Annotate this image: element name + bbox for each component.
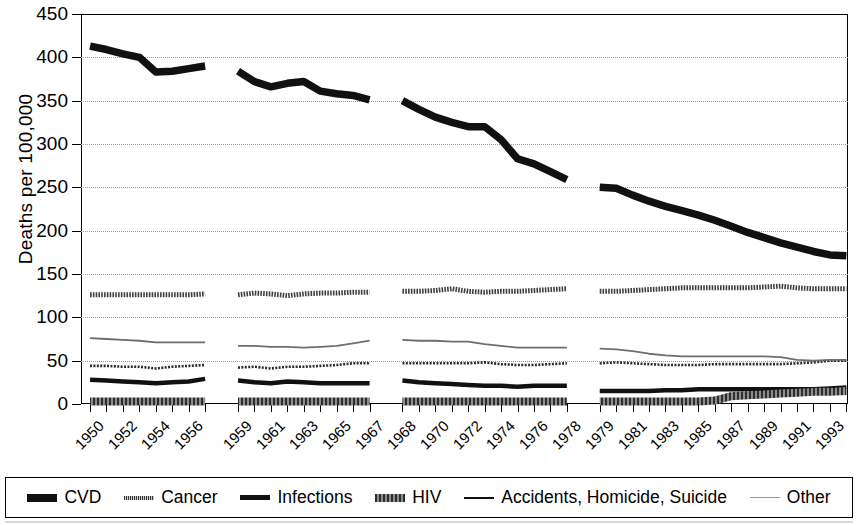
legend-swatch-cvd-icon xyxy=(27,494,57,502)
series-line-other xyxy=(90,338,205,342)
y-axis-tick-label: 0 xyxy=(57,393,68,415)
y-axis-tick xyxy=(72,144,81,145)
y-axis-tick xyxy=(72,361,81,362)
series-lines xyxy=(81,14,848,404)
x-axis-tick xyxy=(846,404,847,412)
x-axis-tick-label: 1963 xyxy=(285,417,321,453)
series-line-infections xyxy=(402,381,566,387)
legend-label: CVD xyxy=(64,487,101,508)
y-axis-tick xyxy=(72,404,81,405)
series-line-other xyxy=(402,340,566,348)
legend-label: Cancer xyxy=(161,487,217,508)
series-line-cvd xyxy=(402,101,566,180)
y-axis-tick-label: 250 xyxy=(36,176,68,198)
series-line-accidents-homicide-suicide xyxy=(90,365,205,368)
x-axis-tick xyxy=(781,404,782,412)
x-axis-tick-label: 1967 xyxy=(351,417,387,453)
x-axis-tick-label: 1952 xyxy=(104,417,140,453)
y-axis-tick xyxy=(72,187,81,188)
x-axis-tick-label: 1979 xyxy=(581,417,617,453)
y-axis-tick-label: 100 xyxy=(36,306,68,328)
x-axis-tick-label: 1959 xyxy=(219,417,255,453)
legend-label: HIV xyxy=(412,487,441,508)
x-axis-tick-label: 1978 xyxy=(548,417,584,453)
y-axis-tick-label: 50 xyxy=(47,350,68,372)
x-axis-tick-label: 1954 xyxy=(137,417,173,453)
series-line-infections xyxy=(238,381,370,384)
x-axis-tick-label: 1968 xyxy=(384,417,420,453)
series-line-cvd xyxy=(90,46,205,72)
x-axis-tick-label: 1956 xyxy=(170,417,206,453)
x-axis-tick xyxy=(764,404,765,412)
x-axis-tick-label: 1985 xyxy=(680,417,716,453)
legend-swatch-hiv-icon xyxy=(375,494,405,502)
series-line-cancer xyxy=(90,294,205,295)
legend-item-accidents-homicide-suicide[interactable]: Accidents, Homicide, Suicide xyxy=(464,487,727,508)
x-axis-tick xyxy=(731,404,732,412)
y-axis-tick-label: 300 xyxy=(36,133,68,155)
legend-item-hiv[interactable]: HIV xyxy=(375,487,441,508)
x-axis-tick xyxy=(830,404,831,412)
series-line-cvd xyxy=(600,187,847,255)
legend-swatch-acc-icon xyxy=(464,497,494,499)
x-axis-tick xyxy=(567,404,568,412)
series-line-accidents-homicide-suicide xyxy=(238,363,370,368)
line-chart-figure: Deaths per 100,000 050100150200250300350… xyxy=(0,0,860,470)
x-axis-tick-label: 1961 xyxy=(252,417,288,453)
legend-swatch-other-icon xyxy=(750,497,780,499)
x-axis-tick-label: 1983 xyxy=(647,417,683,453)
legend-label: Infections xyxy=(277,487,352,508)
x-axis-tick xyxy=(715,404,716,412)
legend-swatch-cancer-icon xyxy=(124,496,154,500)
y-axis-tick xyxy=(72,101,81,102)
footer-rule xyxy=(5,521,853,523)
legend-swatch-inf-icon xyxy=(240,495,270,500)
x-axis-tick-label: 1976 xyxy=(515,417,551,453)
y-axis-tick-label: 150 xyxy=(36,263,68,285)
series-line-other xyxy=(238,341,370,348)
x-axis-tick-label: 1950 xyxy=(71,417,107,453)
legend-item-other[interactable]: Other xyxy=(750,487,831,508)
y-axis-tick-label: 400 xyxy=(36,46,68,68)
x-axis-tick xyxy=(205,404,206,412)
legend-item-infections[interactable]: Infections xyxy=(240,487,352,508)
series-line-other xyxy=(600,349,847,361)
x-axis-tick-label: 1974 xyxy=(482,417,518,453)
y-axis-tick xyxy=(72,14,81,15)
series-line-infections xyxy=(90,379,205,383)
legend-item-cvd[interactable]: CVD xyxy=(27,487,101,508)
chart-page: Deaths per 100,000 050100150200250300350… xyxy=(0,0,860,525)
legend-label: Other xyxy=(787,487,831,508)
legend-label: Accidents, Homicide, Suicide xyxy=(501,487,727,508)
x-axis-tick-label: 1965 xyxy=(318,417,354,453)
plot-area: 050100150200250300350400450 195019521954… xyxy=(81,14,848,404)
x-axis-tick-label: 1972 xyxy=(450,417,486,453)
x-axis-tick-label: 1987 xyxy=(713,417,749,453)
series-line-accidents-homicide-suicide xyxy=(402,362,566,365)
series-line-cancer xyxy=(402,289,566,292)
x-axis-tick-label: 1970 xyxy=(417,417,453,453)
y-axis-tick-label: 200 xyxy=(36,220,68,242)
series-line-cancer xyxy=(600,286,847,291)
y-axis-tick xyxy=(72,231,81,232)
x-axis-tick-label: 1989 xyxy=(746,417,782,453)
y-axis-tick xyxy=(72,274,81,275)
series-line-cvd xyxy=(238,71,370,100)
x-axis-tick xyxy=(797,404,798,412)
chart-legend: CVDCancerInfectionsHIVAccidents, Homicid… xyxy=(5,477,853,518)
x-axis-tick-label: 1981 xyxy=(614,417,650,453)
x-axis-tick xyxy=(370,404,371,412)
x-axis-tick-label: 1991 xyxy=(778,417,814,453)
x-axis-tick xyxy=(748,404,749,412)
y-axis-tick-label: 450 xyxy=(36,3,68,25)
y-axis-tick-label: 350 xyxy=(36,90,68,112)
y-axis-tick xyxy=(72,57,81,58)
series-line-cancer xyxy=(238,292,370,295)
y-axis-title: Deaths per 100,000 xyxy=(15,19,37,339)
x-axis-tick xyxy=(813,404,814,412)
legend-item-cancer[interactable]: Cancer xyxy=(124,487,217,508)
y-axis-tick xyxy=(72,317,81,318)
x-axis-tick-label: 1993 xyxy=(811,417,847,453)
